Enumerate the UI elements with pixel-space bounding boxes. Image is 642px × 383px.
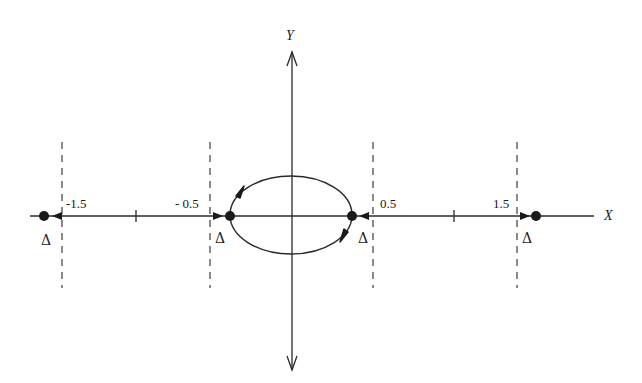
closed-orbit [230, 176, 352, 254]
delta-marker: Δ [41, 232, 51, 248]
delta-marker: Δ [358, 230, 368, 246]
equilibrium-point [225, 211, 235, 221]
equilibrium-point [39, 211, 49, 221]
equilibrium-point [347, 211, 357, 221]
dashed-boundaries [62, 142, 517, 288]
flow-arrow-left-inner-icon [213, 212, 223, 220]
flow-arrow-left-outer-icon [52, 212, 62, 220]
y-axis: Y [286, 28, 297, 370]
orbit-arrow-upper-icon [236, 186, 244, 198]
x-axis-label: X [603, 208, 613, 223]
y-axis-label: Y [286, 28, 296, 43]
tick-label-neg-1-5: -1.5 [66, 196, 87, 211]
tick-label-pos-1-5: 1.5 [493, 196, 509, 211]
phase-portrait-diagram: X Y -1.5 - 0.5 0.5 1.5 Δ Δ Δ Δ [0, 0, 642, 383]
tick-label-pos-0-5: 0.5 [380, 196, 396, 211]
equilibrium-point [531, 211, 541, 221]
orbit-arrow-lower-icon [340, 229, 348, 242]
tick-label-neg-0-5: - 0.5 [175, 196, 199, 211]
delta-marker: Δ [215, 230, 225, 246]
delta-marker: Δ [522, 230, 532, 246]
flow-arrow-right-outer-icon [520, 212, 530, 220]
flow-arrow-right-inner-icon [359, 212, 369, 220]
